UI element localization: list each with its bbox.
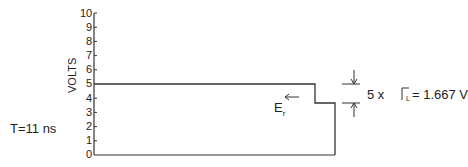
- y-tick: 6: [80, 64, 92, 75]
- y-tick: 3: [80, 107, 92, 118]
- dimension-marker: [342, 70, 360, 117]
- y-tick: 10: [80, 8, 92, 19]
- y-tick: 4: [80, 93, 92, 104]
- y-tick: 0: [80, 149, 92, 160]
- y-tick: 2: [80, 121, 92, 132]
- wave-label-sub: r: [283, 109, 286, 118]
- time-label: T=11 ns: [10, 121, 56, 136]
- y-tick: 7: [80, 50, 92, 61]
- y-tick: 8: [80, 36, 92, 47]
- annotation-prefix: 5 x: [367, 87, 384, 102]
- left-arrow-icon: [285, 94, 299, 100]
- y-axis-label: VOLTS: [66, 58, 78, 93]
- wave-label: Er: [274, 100, 285, 118]
- annotation-value: = 1.667 V: [412, 87, 468, 102]
- gamma-subscript: L: [406, 95, 410, 102]
- wave-label-main: E: [274, 100, 283, 115]
- y-tick: 9: [80, 22, 92, 33]
- y-tick: 1: [80, 135, 92, 146]
- voltage-waveform: [94, 84, 335, 155]
- y-tick: 5: [80, 78, 92, 89]
